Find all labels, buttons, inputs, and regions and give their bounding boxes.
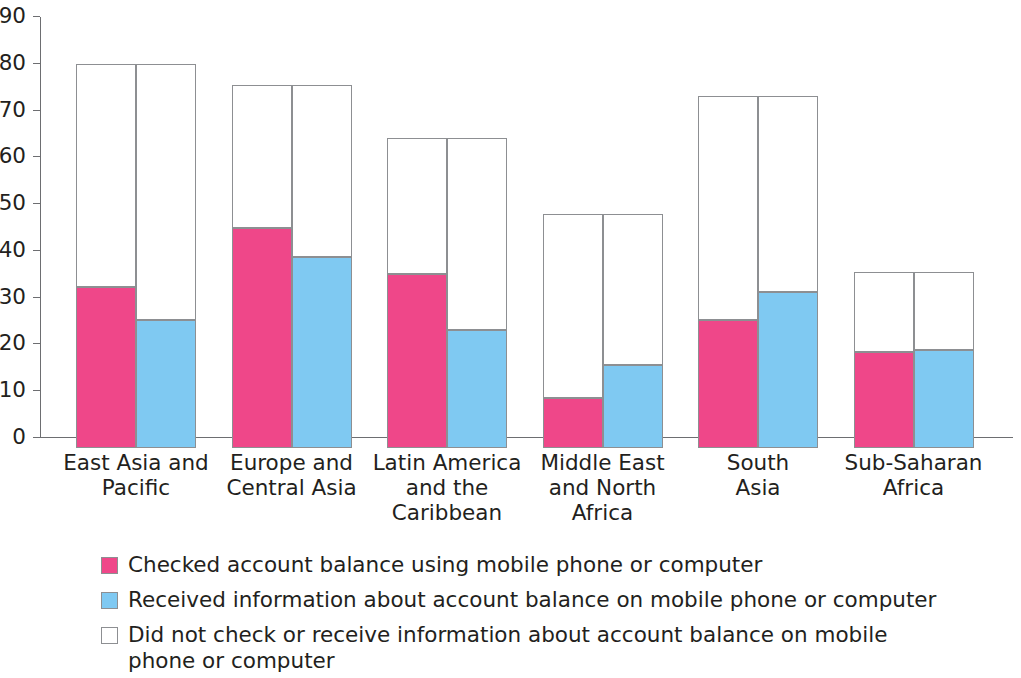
bar-segment-did-not bbox=[603, 214, 663, 365]
pink-swatch-icon bbox=[101, 557, 118, 574]
bar-segment-checked bbox=[232, 228, 292, 448]
legend-item-did-not: Did not check or receive information abo… bbox=[101, 622, 1001, 674]
bar-segment-checked bbox=[698, 320, 758, 448]
bar-segment-did-not bbox=[914, 272, 974, 350]
x-axis-label-line: Pacific bbox=[46, 475, 226, 500]
legend-label-received: Received information about account balan… bbox=[128, 587, 936, 613]
x-axis-label: Middle Eastand NorthAfrica bbox=[513, 450, 693, 525]
y-tick-mark bbox=[33, 437, 40, 438]
x-axis-label-line: Africa bbox=[513, 500, 693, 525]
legend-label-checked: Checked account balance using mobile pho… bbox=[128, 552, 762, 578]
bar-group bbox=[76, 27, 196, 448]
x-axis-label-line: Asia bbox=[668, 475, 848, 500]
bar-segment-did-not bbox=[543, 214, 603, 398]
y-tick-label: 30 bbox=[0, 286, 26, 308]
bar-segment-checked bbox=[76, 287, 136, 448]
y-tick-mark bbox=[33, 297, 40, 298]
x-axis-label: Sub-SaharanAfrica bbox=[824, 450, 1004, 500]
y-tick-mark bbox=[33, 203, 40, 204]
bar-group bbox=[698, 27, 818, 448]
stacked-bar bbox=[292, 85, 352, 448]
y-tick-label: 0 bbox=[0, 426, 26, 448]
stacked-bar bbox=[543, 214, 603, 448]
stacked-bar bbox=[854, 272, 914, 448]
legend-item-checked: Checked account balance using mobile pho… bbox=[101, 552, 1001, 578]
bar-group bbox=[232, 27, 352, 448]
y-tick-mark bbox=[33, 156, 40, 157]
stacked-bar bbox=[698, 96, 758, 448]
stacked-bar bbox=[447, 138, 507, 448]
bar-segment-checked bbox=[854, 352, 914, 448]
x-axis-label-line: East Asia and bbox=[46, 450, 226, 475]
y-tick-mark bbox=[33, 250, 40, 251]
y-tick-label: 50 bbox=[0, 192, 26, 214]
bar-segment-did-not bbox=[136, 64, 196, 320]
white-swatch-icon bbox=[101, 627, 118, 644]
bar-segment-received bbox=[758, 292, 818, 448]
x-axis-label-line: South bbox=[668, 450, 848, 475]
chart-container: 0102030405060708090 East Asia andPacific… bbox=[0, 0, 1021, 678]
bar-segment-did-not bbox=[387, 138, 447, 274]
y-tick-label: 80 bbox=[0, 52, 26, 74]
y-tick-mark bbox=[33, 343, 40, 344]
stacked-bar bbox=[232, 85, 292, 448]
bar-segment-received bbox=[136, 320, 196, 448]
stacked-bar bbox=[387, 138, 447, 448]
y-tick-mark bbox=[33, 63, 40, 64]
bar-segment-did-not bbox=[232, 85, 292, 228]
bar-group bbox=[854, 27, 974, 448]
y-tick-label: 70 bbox=[0, 99, 26, 121]
bar-segment-checked bbox=[543, 398, 603, 448]
stacked-bar bbox=[136, 64, 196, 448]
bar-group bbox=[543, 27, 663, 448]
bar-segment-did-not bbox=[292, 85, 352, 257]
chart-legend: Checked account balance using mobile pho… bbox=[101, 552, 1001, 678]
x-axis-label-line: Central Asia bbox=[202, 475, 382, 500]
stacked-bar bbox=[914, 272, 974, 448]
x-axis-label-line: Caribbean bbox=[357, 500, 537, 525]
bar-segment-checked bbox=[387, 274, 447, 448]
stacked-bar bbox=[76, 64, 136, 448]
x-axis-label: SouthAsia bbox=[668, 450, 848, 500]
x-axis-label-line: Sub-Saharan bbox=[824, 450, 1004, 475]
y-tick-label: 40 bbox=[0, 239, 26, 261]
bar-segment-received bbox=[914, 350, 974, 448]
y-tick-label: 20 bbox=[0, 332, 26, 354]
x-axis-label: Europe andCentral Asia bbox=[202, 450, 382, 500]
x-axis-label-line: Middle East bbox=[513, 450, 693, 475]
y-tick-label: 60 bbox=[0, 145, 26, 167]
bar-segment-did-not bbox=[758, 96, 818, 292]
bar-segment-did-not bbox=[447, 138, 507, 330]
y-tick-mark bbox=[33, 390, 40, 391]
bar-segment-received bbox=[603, 365, 663, 448]
x-axis-label-line: and North bbox=[513, 475, 693, 500]
legend-label-did-not: Did not check or receive information abo… bbox=[128, 622, 958, 674]
y-tick-mark bbox=[33, 16, 40, 17]
x-axis-label-line: Africa bbox=[824, 475, 1004, 500]
stacked-bar bbox=[758, 96, 818, 448]
bar-segment-received bbox=[292, 257, 352, 448]
bar-segment-did-not bbox=[698, 96, 758, 320]
y-tick-label: 10 bbox=[0, 379, 26, 401]
bar-segment-received bbox=[447, 330, 507, 448]
y-axis-line bbox=[40, 17, 41, 438]
x-axis-label: East Asia andPacific bbox=[46, 450, 226, 500]
x-axis-label-line: and the bbox=[357, 475, 537, 500]
legend-item-received: Received information about account balan… bbox=[101, 587, 1001, 613]
x-axis-label: Latin Americaand theCaribbean bbox=[357, 450, 537, 525]
stacked-bar bbox=[603, 214, 663, 448]
x-axis-label-line: Europe and bbox=[202, 450, 382, 475]
y-tick-mark bbox=[33, 110, 40, 111]
blue-swatch-icon bbox=[101, 592, 118, 609]
y-tick-label: 90 bbox=[0, 5, 26, 27]
plot-area: 0102030405060708090 bbox=[40, 8, 1015, 448]
x-axis-label-line: Latin America bbox=[357, 450, 537, 475]
bar-segment-did-not bbox=[76, 64, 136, 287]
bar-group bbox=[387, 27, 507, 448]
bar-segment-did-not bbox=[854, 272, 914, 352]
